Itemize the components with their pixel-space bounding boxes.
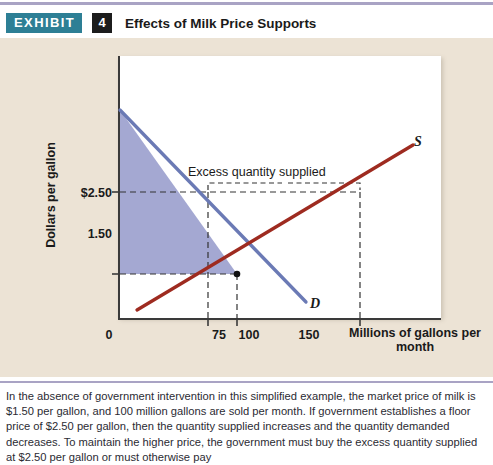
excess-quantity-supplied-label: Excess quantity supplied — [188, 165, 326, 179]
top-divider — [0, 2, 493, 5]
page-title: Effects of Milk Price Supports — [125, 16, 316, 31]
x-tick-label-150: 150 — [292, 328, 326, 342]
exhibit-number-badge: 4 — [92, 13, 112, 33]
chart-panel: Dollars per gallon $2.50 1.50 0 75 100 1… — [0, 38, 493, 377]
y-tick-label-250: $2.50 — [56, 186, 112, 200]
caption-divider — [0, 381, 493, 383]
y-tick-label-150: 1.50 — [56, 227, 112, 241]
exhibit-header: EXHIBIT 4 Effects of Milk Price Supports — [6, 12, 316, 34]
exhibit-caption: In the absence of government interventio… — [6, 389, 487, 465]
shaded-surplus-region — [120, 110, 237, 274]
demand-curve-label: D — [310, 296, 320, 312]
x-tick-label-0: 0 — [92, 328, 126, 342]
x-tick-label-75: 75 — [202, 328, 236, 342]
supply-curve-label: S — [414, 134, 422, 150]
exhibit-badge: EXHIBIT — [6, 13, 82, 33]
x-tick-label-100: 100 — [232, 328, 266, 342]
equilibrium-point — [234, 271, 241, 278]
x-axis-title: Millions of gallons per month — [345, 326, 485, 354]
